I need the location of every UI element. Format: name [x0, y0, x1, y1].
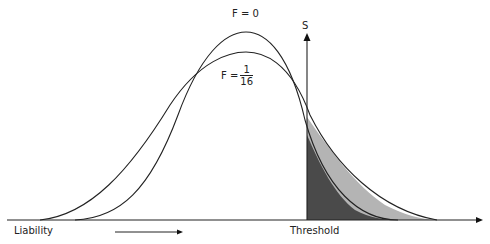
fraction: 1 16: [240, 64, 253, 87]
label-liability: Liability: [14, 225, 53, 236]
fraction-denominator: 16: [240, 76, 253, 87]
direction-arrow-icon: [177, 230, 183, 235]
axis-arrow-icon: [476, 217, 483, 223]
label-s: S: [302, 20, 308, 31]
label-f-1-16: F = 1 16: [221, 64, 253, 87]
label-f-prefix: F =: [221, 70, 238, 81]
fraction-numerator: 1: [240, 64, 252, 76]
label-threshold: Threshold: [290, 225, 339, 236]
liability-diagram: [0, 0, 490, 244]
s-arrow-icon: [304, 33, 311, 41]
label-f-0: F = 0: [232, 8, 259, 19]
